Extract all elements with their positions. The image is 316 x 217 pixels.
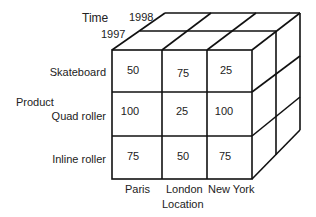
cell-quad-roller-new-york: 100	[204, 105, 244, 117]
time-value-1998: 1998	[129, 11, 153, 23]
product-value-skateboard: Skateboard	[50, 66, 106, 78]
cell-inline-roller-new-york: 75	[205, 150, 245, 162]
cell-skateboard-paris: 50	[113, 64, 153, 76]
cube-wireframe	[0, 0, 316, 217]
location-value-new-york: New York	[208, 183, 254, 195]
cell-quad-roller-london: 25	[162, 105, 202, 117]
time-value-1997: 1997	[101, 28, 125, 40]
cell-inline-roller-london: 50	[163, 150, 203, 162]
location-axis-label: Location	[162, 198, 204, 210]
product-axis-label: Product	[16, 96, 54, 108]
cell-quad-roller-paris: 100	[110, 105, 150, 117]
time-axis-label: Time	[82, 12, 108, 24]
cell-skateboard-london: 75	[163, 67, 203, 79]
location-value-paris: Paris	[125, 183, 150, 195]
product-value-inline-roller: Inline roller	[52, 153, 106, 165]
cell-skateboard-new-york: 25	[206, 64, 246, 76]
product-value-quad-roller: Quad roller	[52, 110, 106, 122]
cell-inline-roller-paris: 75	[113, 150, 153, 162]
location-value-london: London	[166, 183, 203, 195]
